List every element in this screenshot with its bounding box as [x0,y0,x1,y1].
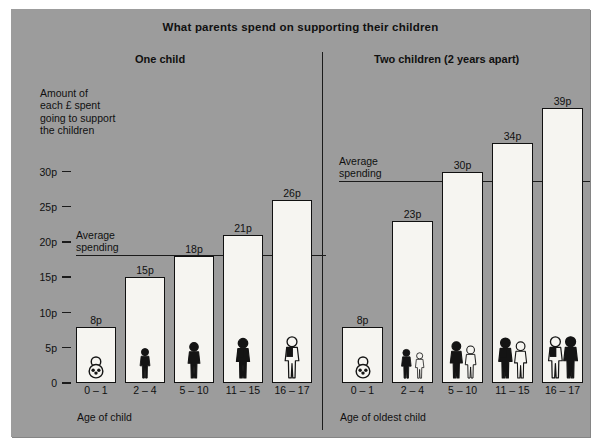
baby-icon [344,333,382,379]
bar: 8p0 – 1 [76,327,116,383]
plot-area-one-child: Average spending8p0 – 115p2 – 418p5 – 10… [76,83,311,383]
two-older-teens-icon [544,333,582,379]
bar-value-label: 18p [185,243,203,255]
child-icon [175,333,213,379]
two-toddlers-icon [394,333,432,379]
x-axis-caption-one-child: Age of child [77,411,132,423]
category-label: 11 – 15 [495,384,529,396]
category-label: 2 – 4 [401,384,424,396]
bar-value-label: 21p [234,222,252,234]
bar-value-label: 39p [554,95,572,107]
bar: 34p11 – 15 [492,143,533,383]
two-teens-icon [494,333,532,379]
bar-value-label: 26p [283,187,301,199]
two-children-icon [444,333,482,379]
category-label: 5 – 10 [448,384,477,396]
bar: 26p16 – 17 [272,200,312,383]
bar-value-label: 8p [90,314,102,326]
category-label: 0 – 1 [351,384,374,396]
toddler-icon [126,333,164,379]
category-label: 16 – 17 [274,384,309,396]
bar: 8p0 – 1 [342,327,383,383]
category-label: 16 – 17 [545,384,580,396]
bar-value-label: 8p [357,314,369,326]
panel-one-child: Average spending8p0 – 115p2 – 418p5 – 10… [11,9,322,437]
average-spending-label: Average spending [76,229,119,253]
bar-value-label: 15p [136,264,154,276]
baby-icon [77,333,115,379]
teen-backpack-icon [273,333,311,379]
category-label: 11 – 15 [226,384,260,396]
panel-two-children: Average spending8p0 – 123p2 – 430p5 – 10… [322,9,590,437]
category-label: 5 – 10 [179,384,208,396]
average-spending-label: Average spending [339,155,382,179]
bar: 18p5 – 10 [174,256,214,383]
bar-value-label: 34p [504,130,522,142]
category-label: 2 – 4 [133,384,156,396]
bar-value-label: 30p [454,159,472,171]
plot-area-two-children: Average spending8p0 – 123p2 – 430p5 – 10… [339,83,579,383]
bar: 21p11 – 15 [223,235,263,383]
bar: 15p2 – 4 [125,277,165,383]
chart-figure: What parents spend on supporting their c… [11,9,590,437]
bar-value-label: 23p [404,208,422,220]
teen-walking-icon [224,333,262,379]
bar: 23p2 – 4 [392,221,433,383]
bar: 30p5 – 10 [442,172,483,384]
bar: 39p16 – 17 [542,108,583,383]
x-axis-caption-two-children: Age of oldest child [340,411,426,423]
category-label: 0 – 1 [84,384,107,396]
